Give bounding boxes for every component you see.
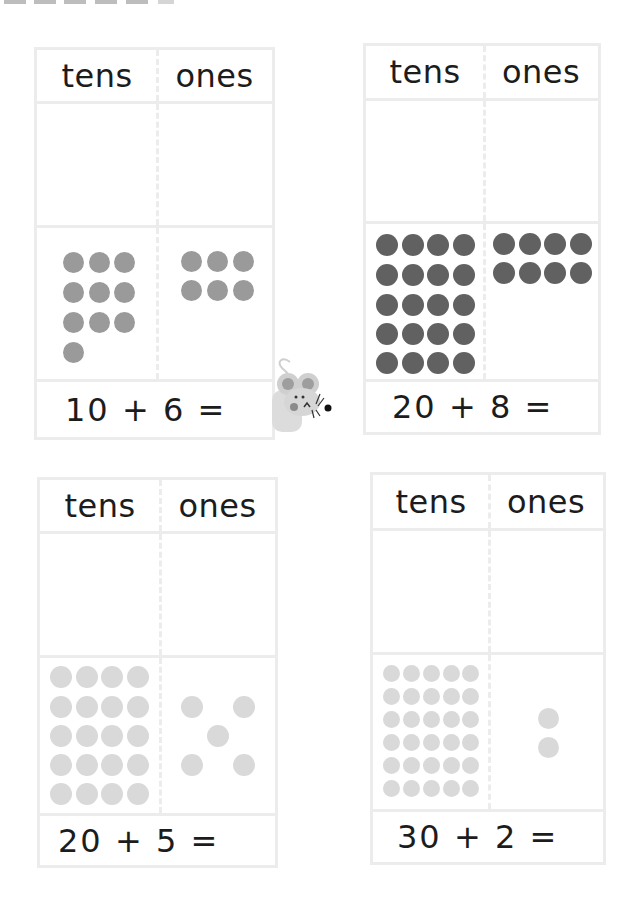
counters-area: [366, 224, 598, 382]
problem-card-4: tens ones: [370, 472, 606, 865]
ones-header: ones: [157, 50, 272, 101]
problem-card-3: tens ones: [37, 477, 278, 868]
top-dashed-border: [0, 0, 200, 6]
ones-header: ones: [160, 480, 275, 531]
equation-row[interactable]: 10 + 6 =: [37, 382, 272, 437]
header-row: tens ones: [373, 475, 603, 531]
answer-area[interactable]: [373, 531, 603, 655]
answer-area[interactable]: [40, 534, 275, 658]
equation: 20 + 8 =: [392, 382, 553, 432]
tens-header: tens: [366, 46, 484, 98]
equation: 10 + 6 =: [65, 382, 226, 437]
equation: 30 + 2 =: [397, 812, 558, 862]
counters-area: [373, 655, 603, 812]
tens-header: tens: [40, 480, 160, 531]
tens-header: tens: [373, 475, 489, 528]
ones-header: ones: [489, 475, 603, 528]
mouse-icon: [268, 352, 338, 436]
header-row: tens ones: [40, 480, 275, 534]
equation: 20 + 5 =: [58, 816, 219, 865]
header-row: tens ones: [37, 50, 272, 104]
counters-area: [37, 228, 272, 382]
problem-card-2: tens ones: [363, 43, 601, 435]
tens-header: tens: [37, 50, 157, 101]
answer-area[interactable]: [366, 101, 598, 224]
equation-row[interactable]: 20 + 5 =: [40, 816, 275, 865]
problem-card-1: tens ones 10 + 6 =: [34, 47, 275, 440]
equation-row[interactable]: 20 + 8 =: [366, 382, 598, 432]
answer-area[interactable]: [37, 104, 272, 228]
ones-header: ones: [484, 46, 598, 98]
header-row: tens ones: [366, 46, 598, 101]
counters-area: [40, 658, 275, 816]
equation-row[interactable]: 30 + 2 =: [373, 812, 603, 862]
